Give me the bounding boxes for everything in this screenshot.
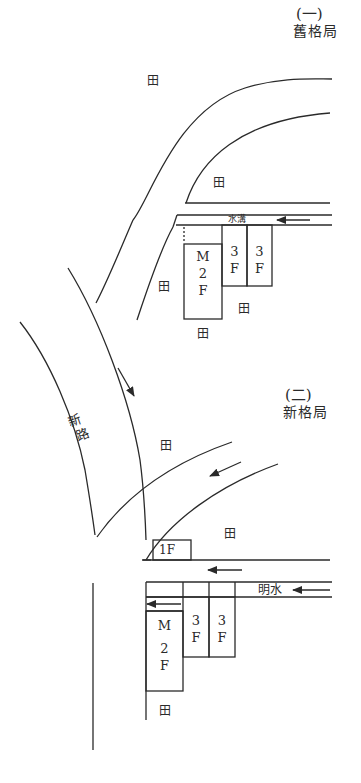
building-floor-text: M: [146, 617, 183, 634]
building-floor-text: F: [146, 657, 183, 674]
building-floor-text: F: [183, 629, 209, 646]
field-label: 田: [197, 328, 209, 340]
field-label: 田: [159, 705, 171, 717]
new-layout-number: (二): [285, 388, 312, 403]
old-building-m2f-label: M 2 F: [184, 248, 222, 299]
field-label: 田: [238, 303, 250, 315]
new-road-right-edge: [68, 268, 146, 540]
building-floor-text: 2: [184, 265, 222, 282]
new-building-1f-label: 1F: [159, 544, 175, 556]
field-label: 田: [158, 281, 170, 293]
building-floor-text: 3: [222, 243, 247, 260]
ditch-label: 水溝: [228, 215, 246, 224]
old-building-3f-a-label: 3 F: [222, 243, 247, 277]
building-floor-text: F: [209, 629, 235, 646]
building-floor-text: F: [222, 260, 247, 277]
new-road-arrow: [210, 462, 241, 476]
old-field-left-edge: [137, 227, 173, 320]
old-layout-title: 舊格局: [293, 24, 338, 38]
building-floor-text: M: [184, 248, 222, 265]
building-floor-text: 3: [247, 243, 272, 260]
new-road-upper-edge: [97, 442, 232, 537]
old-road-outer-lower: [96, 220, 133, 303]
water-label: 明水: [258, 584, 282, 596]
field-label: 田: [213, 177, 225, 189]
old-road-inner-edge: [186, 113, 330, 203]
building-floor-text: 3: [183, 612, 209, 629]
building-floor-text: F: [184, 282, 222, 299]
new-building-3f-a-label: 3 F: [183, 612, 209, 646]
field-label: 田: [160, 440, 172, 452]
old-building-3f-b-label: 3 F: [247, 243, 272, 277]
building-floor-text: F: [247, 260, 272, 277]
new-building-3f-b-label: 3 F: [209, 612, 235, 646]
old-layout-number: (一): [296, 7, 323, 22]
building-floor-text: 2: [146, 640, 183, 657]
building-floor-text: 3: [209, 612, 235, 629]
field-label: 田: [147, 75, 159, 87]
field-label: 田: [224, 528, 236, 540]
old-road-outer-edge: [133, 79, 332, 220]
new-layout-title: 新格局: [283, 405, 328, 419]
new-building-m2f-label: M 2 F: [146, 617, 183, 674]
